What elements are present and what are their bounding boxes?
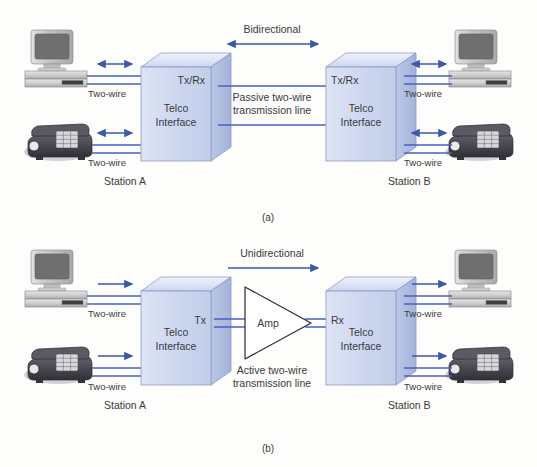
wire-label-computer-left-b: Two-wire [88, 308, 126, 319]
computer-right-a [449, 30, 511, 87]
direction-label-b: Unidirectional [240, 247, 304, 259]
telco-box-left-b: Telco Interface [141, 277, 231, 385]
amplifier-label: Amp [257, 317, 279, 329]
link-label-a-line2: transmission line [233, 104, 311, 116]
panel-b: Unidirectional Two-wire [0, 234, 537, 467]
wire-label-phone-right-a: Two-wire [404, 157, 442, 168]
phone-right-a [445, 124, 513, 161]
telco-box-label-line1: Telco [164, 326, 189, 338]
station-name-left-b: Station A [104, 399, 146, 411]
computer-left-a [25, 30, 87, 87]
phone-right-b [445, 347, 513, 384]
phone-left-a [24, 124, 92, 161]
wire-label-computer-right-b: Two-wire [404, 308, 442, 319]
telco-box-label-line2: Interface [341, 340, 382, 352]
computer-left-b [25, 250, 87, 307]
panel-caption-a: (a) [262, 212, 274, 223]
amplifier-triangle-icon: Amp [245, 287, 311, 359]
port-label-right-a: Tx/Rx [331, 74, 359, 86]
link-label-b-line1: Active two-wire [237, 364, 308, 376]
panel-a: Bidirectional Two-wire [0, 0, 537, 234]
wire-label-phone-left-b: Two-wire [88, 381, 126, 392]
direction-indicator-b: Unidirectional [228, 247, 318, 268]
telco-box-label-line2: Interface [156, 116, 197, 128]
telco-box-right-a: Telco Interface [326, 53, 416, 161]
phone-left-b [24, 347, 92, 384]
port-label-left-a: Tx/Rx [178, 74, 206, 86]
telco-box-label-line1: Telco [164, 102, 189, 114]
link-label-a-line1: Passive two-wire [233, 91, 312, 103]
direction-indicator-a: Bidirectional [228, 23, 318, 44]
telco-box-right-b: Telco Interface [326, 277, 416, 385]
figure-root: Bidirectional Two-wire [0, 0, 537, 467]
port-label-right-b: Rx [331, 314, 345, 326]
wire-label-phone-right-b: Two-wire [404, 381, 442, 392]
station-name-right-b: Station B [388, 399, 431, 411]
link-label-b-line2: transmission line [233, 377, 311, 389]
telco-box-label-line2: Interface [156, 340, 197, 352]
port-label-left-b: Tx [194, 314, 206, 326]
telco-box-label-line1: Telco [349, 326, 374, 338]
panel-caption-b: (b) [262, 443, 274, 454]
telco-box-left-a: Telco Interface [141, 53, 231, 161]
station-name-right-a: Station B [388, 175, 431, 187]
computer-right-b [449, 250, 511, 307]
wire-label-computer-left-a: Two-wire [88, 88, 126, 99]
telco-box-label-line1: Telco [349, 102, 374, 114]
station-name-left-a: Station A [104, 175, 146, 187]
direction-label-a: Bidirectional [243, 23, 300, 35]
wire-label-phone-left-a: Two-wire [88, 157, 126, 168]
wire-label-computer-right-a: Two-wire [404, 88, 442, 99]
telco-box-label-line2: Interface [341, 116, 382, 128]
